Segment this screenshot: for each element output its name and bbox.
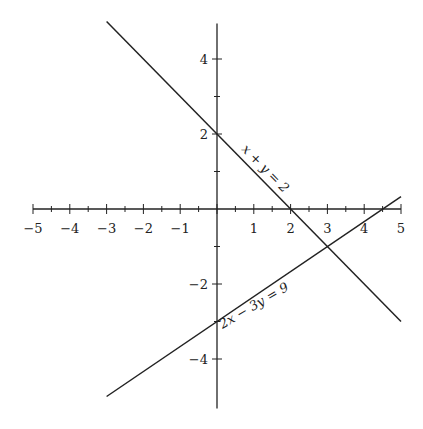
- y-tick-label: 2: [200, 127, 208, 142]
- y-tick-label: −4: [189, 352, 208, 367]
- chart: −5−4−3−2−11234542−2−4x + y = 22x − 3y = …: [0, 0, 423, 429]
- x-tick-label: −1: [171, 221, 190, 236]
- series-line-1: [107, 22, 401, 322]
- x-tick-label: −3: [97, 221, 116, 236]
- y-tick-label: −2: [189, 277, 208, 292]
- equation-label-2: 2x − 3y = 9: [216, 279, 292, 332]
- equation-label-1: x + y = 2: [239, 141, 293, 195]
- y-tick-label: 4: [200, 52, 208, 67]
- x-tick-label: 1: [250, 221, 258, 236]
- x-tick-label: 3: [323, 221, 331, 236]
- x-tick-label: 2: [286, 221, 294, 236]
- x-tick-label: 5: [397, 221, 405, 236]
- x-tick-label: −5: [23, 221, 42, 236]
- x-tick-label: −2: [134, 221, 153, 236]
- x-tick-label: −4: [60, 221, 79, 236]
